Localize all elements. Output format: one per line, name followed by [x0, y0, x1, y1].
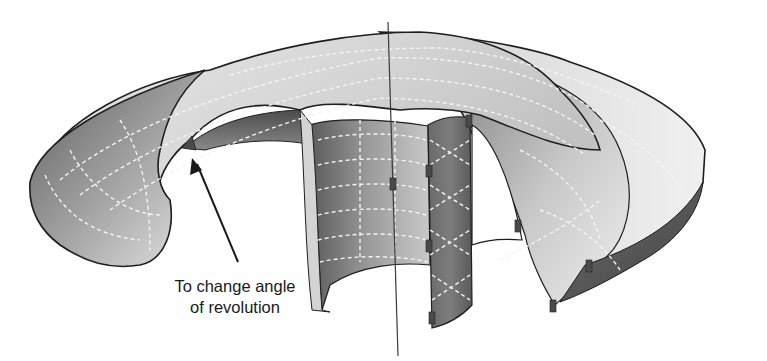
callout-arrow — [190, 158, 238, 262]
revolved-surface-drawing — [0, 0, 767, 361]
handle-helix-bottom[interactable] — [429, 312, 435, 324]
handle-helix-lower[interactable] — [426, 240, 432, 252]
handle-right-lobe[interactable] — [515, 220, 521, 232]
callout-line-2: of revolution — [155, 297, 315, 318]
handle-helix-top[interactable] — [466, 115, 472, 127]
handle-right-bottom[interactable] — [550, 300, 556, 312]
revolved-surface-figure: To change angle of revolution — [0, 0, 767, 361]
callout-line-1: To change angle — [155, 276, 315, 297]
helical-cylinder-surface — [428, 117, 472, 328]
callout-label: To change angle of revolution — [155, 276, 315, 318]
handle-cylinder-mid[interactable] — [390, 178, 396, 190]
handle-right-cut[interactable] — [586, 260, 592, 272]
handle-helix-upper[interactable] — [426, 165, 432, 177]
central-cylinder-surface — [310, 120, 430, 310]
